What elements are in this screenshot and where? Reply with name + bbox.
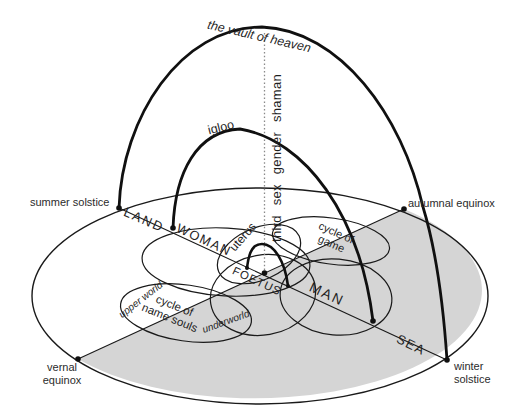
uterus-right-foot-dot — [286, 284, 290, 288]
third-sex-gender-shaman-label: third sex gender shaman — [270, 74, 284, 242]
winter-solstice-dot — [444, 357, 450, 363]
summer-solstice-label: summer solstice — [30, 196, 109, 209]
woman-ellipse — [140, 224, 311, 301]
summer-solstice-dot — [116, 205, 122, 211]
centre-dot — [262, 270, 268, 276]
winter-solstice-label: winter solstice — [454, 360, 500, 386]
igloo-right-foot-dot — [370, 318, 376, 324]
autumnal-equinox-label: autumnal equinox — [408, 197, 495, 210]
cosmology-diagram: the vault of heaven igloo third sex gend… — [0, 0, 527, 419]
autumnal-equinox-dot — [401, 206, 407, 212]
vernal-equinox-label: vernal equinox — [36, 361, 88, 387]
